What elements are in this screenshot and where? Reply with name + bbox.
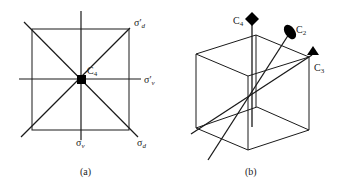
c4-axis-square-icon [77, 75, 86, 84]
caption-b: (b) [245, 166, 257, 178]
panel-a: σ′d C4 σ′v σv σd (a) [19, 11, 156, 178]
label-c3-axis: C3 [314, 62, 325, 75]
label-sigma-prime-d: σ′d [134, 17, 146, 30]
label-sigma-v: σv [76, 137, 85, 150]
label-c4-axis: C4 [233, 15, 244, 28]
symmetry-diagram: σ′d C4 σ′v σv σd (a) C4 C2 C3 (b) [0, 0, 338, 190]
panel-b-axes: C4 C2 C3 (b) [191, 12, 325, 178]
label-sigma-d: σd [137, 137, 146, 150]
label-c4: C4 [87, 65, 98, 78]
c4-diamond-icon [245, 12, 259, 26]
sigma-prime-d-plane [21, 28, 130, 137]
caption-a: (a) [80, 166, 91, 178]
c3-triangle-icon [307, 46, 319, 55]
label-c2-axis: C2 [296, 24, 307, 37]
label-sigma-prime-v: σ′v [144, 74, 156, 87]
